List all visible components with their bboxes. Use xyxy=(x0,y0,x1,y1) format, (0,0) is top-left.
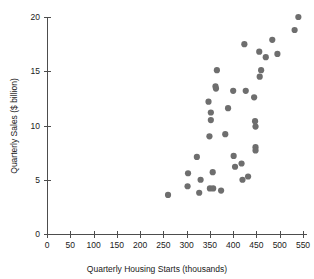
data-point xyxy=(252,147,258,153)
y-axis: 05101520 xyxy=(31,12,51,239)
data-point xyxy=(256,49,262,55)
data-point xyxy=(292,27,298,33)
data-point xyxy=(184,183,190,189)
x-axis: 050100150200250300350400450500550 xyxy=(45,231,311,251)
data-point xyxy=(252,118,258,124)
data-point xyxy=(210,169,216,175)
y-tick-label: 15 xyxy=(31,66,41,76)
data-point xyxy=(231,153,237,159)
x-tick-label: 200 xyxy=(133,240,147,250)
x-tick-label: 100 xyxy=(86,240,100,250)
data-point xyxy=(257,74,263,80)
data-point xyxy=(208,117,214,123)
data-point xyxy=(198,177,204,183)
y-tick-label: 20 xyxy=(31,12,41,22)
data-point xyxy=(165,192,171,198)
data-point xyxy=(258,67,264,73)
data-point xyxy=(295,14,301,20)
data-point xyxy=(251,94,257,100)
data-point xyxy=(238,160,244,166)
x-tick-label: 250 xyxy=(156,240,170,250)
x-tick-label: 150 xyxy=(110,240,124,250)
data-point xyxy=(243,88,249,94)
x-tick-label: 400 xyxy=(226,240,240,250)
data-point xyxy=(206,133,212,139)
data-point xyxy=(213,86,219,92)
x-tick-label: 350 xyxy=(203,240,217,250)
data-point xyxy=(218,188,224,194)
data-point xyxy=(214,67,220,73)
y-tick-label: 0 xyxy=(35,229,40,239)
data-point xyxy=(210,185,216,191)
data-point xyxy=(252,123,258,129)
x-axis-title: Quarterly Housing Starts (thousands) xyxy=(87,264,227,274)
data-point xyxy=(245,173,251,179)
data-point xyxy=(269,37,275,43)
data-point xyxy=(208,109,214,115)
x-tick-label: 500 xyxy=(273,240,287,250)
data-point xyxy=(196,190,202,196)
x-tick-label: 50 xyxy=(66,240,76,250)
data-point xyxy=(225,105,231,111)
data-point xyxy=(185,170,191,176)
data-point xyxy=(222,131,228,137)
y-tick-label: 5 xyxy=(35,175,40,185)
y-axis-title: Quarterly Sales ($ billion) xyxy=(9,78,19,174)
data-point xyxy=(263,54,269,60)
x-tick-label: 300 xyxy=(180,240,194,250)
data-points-layer xyxy=(165,14,302,198)
data-point xyxy=(274,51,280,57)
x-tick-label: 0 xyxy=(45,240,50,250)
y-tick-label: 10 xyxy=(31,121,41,131)
data-point xyxy=(230,88,236,94)
data-point xyxy=(241,41,247,47)
chart-canvas: 05101520 0501001502002503003504004505005… xyxy=(0,0,314,279)
data-point xyxy=(205,99,211,105)
data-point xyxy=(194,154,200,160)
x-tick-label: 450 xyxy=(249,240,263,250)
scatter-chart: 05101520 0501001502002503003504004505005… xyxy=(0,0,314,279)
data-point xyxy=(232,164,238,170)
data-point xyxy=(239,177,245,183)
x-tick-label: 550 xyxy=(296,240,310,250)
